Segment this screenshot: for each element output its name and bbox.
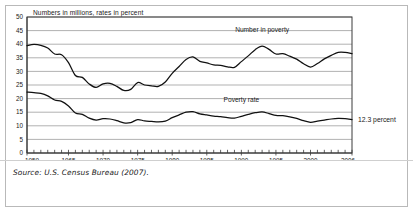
- source-note: Source: U.S. Census Bureau (2007).: [13, 168, 149, 177]
- y-tick-label: 10: [16, 122, 24, 129]
- series-line-poverty-rate: [27, 92, 352, 123]
- y-tick-label: 40: [16, 40, 24, 47]
- chart-svg: 0510152025303540455019591965197019751980…: [0, 0, 403, 160]
- y-tick-label: 15: [16, 108, 24, 115]
- y-tick-label: 5: [19, 136, 23, 143]
- y-tick-label: 25: [16, 81, 24, 88]
- y-tick-label: 30: [16, 68, 24, 75]
- annotation-12-3-percent: 12.3 percent: [358, 116, 396, 124]
- y-tick-label: 35: [16, 54, 24, 61]
- y-tick-label: 0: [19, 149, 23, 156]
- source-divider: [0, 160, 413, 161]
- series-label-poverty-rate: Poverty rate: [224, 96, 260, 104]
- series-line-number-in-poverty: [27, 44, 352, 90]
- poverty-chart-figure: Numbers in millions, rates in percent 05…: [0, 0, 413, 212]
- y-tick-label: 45: [16, 27, 24, 34]
- series-label-number-in-poverty: Number in poverty: [235, 26, 290, 34]
- y-tick-label: 50: [16, 13, 24, 20]
- y-tick-label: 20: [16, 95, 24, 102]
